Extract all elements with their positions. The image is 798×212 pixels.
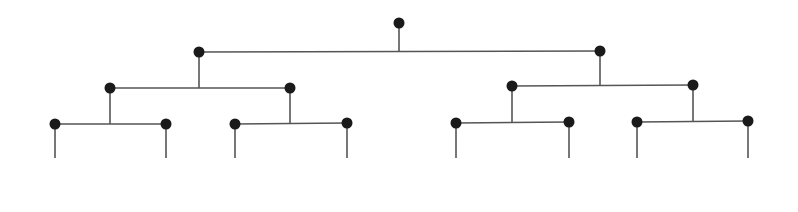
tree-node-R — [595, 46, 606, 57]
tree-node-RRR — [743, 116, 754, 127]
tree-node-RLL — [451, 118, 462, 129]
tree-node-LLL — [50, 119, 61, 130]
tree-nodes — [50, 18, 754, 130]
tree-edges — [55, 23, 748, 158]
edge-bar-LR — [235, 123, 347, 124]
tree-node-LR — [285, 83, 296, 94]
tree-node-RL — [507, 81, 518, 92]
tree-node-RRL — [632, 117, 643, 128]
edge-bar-R — [512, 85, 693, 86]
tree-node-LRL — [230, 119, 241, 130]
tree-node-LL — [105, 83, 116, 94]
edge-bar-root — [199, 51, 600, 52]
tree-node-root — [394, 18, 405, 29]
edge-bar-RR — [637, 121, 748, 122]
tree-diagram — [0, 0, 798, 212]
tree-node-L — [194, 47, 205, 58]
tree-node-LRR — [342, 118, 353, 129]
edge-bar-RL — [456, 122, 569, 123]
tree-node-LLR — [161, 119, 172, 130]
tree-node-RR — [688, 80, 699, 91]
tree-node-RLR — [564, 117, 575, 128]
